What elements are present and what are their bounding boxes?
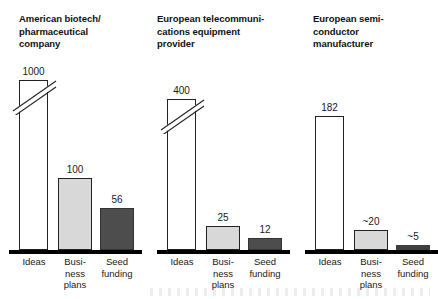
plot-area-2: 400 25 12 Ideas Busi- ness plans Seed fu… — [150, 0, 290, 299]
value-label-business-plans-1: 100 — [53, 164, 97, 175]
category-label-business-plans-2: Busi- ness plans — [201, 256, 245, 291]
category-label-ideas-3: Ideas — [306, 256, 354, 268]
value-label-business-plans-2: 25 — [201, 212, 245, 223]
bar-ideas-3 — [315, 116, 344, 250]
x-axis-1 — [9, 250, 142, 254]
category-label-business-plans-1: Busi- ness plans — [53, 256, 97, 291]
category-label-ideas-2: Ideas — [158, 256, 206, 268]
value-label-ideas-2: 400 — [155, 85, 208, 96]
value-label-seed-funding-2: 12 — [243, 224, 287, 235]
x-axis-2 — [157, 250, 290, 254]
value-label-business-plans-3: ~20 — [349, 216, 393, 227]
plot-area-1: 1000 100 56 Ideas Busi- ness plans Seed … — [0, 0, 150, 299]
category-label-business-plans-3: Busi- ness plans — [349, 256, 393, 291]
bar-business-plans-1 — [58, 178, 92, 250]
bar-business-plans-3 — [354, 230, 388, 250]
value-label-ideas-1: 1000 — [7, 66, 60, 77]
category-label-seed-funding-1: Seed funding — [93, 256, 141, 279]
value-label-seed-funding-1: 56 — [95, 194, 139, 205]
bar-seed-funding-2 — [248, 238, 282, 250]
page-bottom-clipped-text — [150, 288, 430, 296]
bar-ideas-2 — [167, 99, 196, 250]
bar-seed-funding-1 — [100, 208, 134, 250]
x-axis-3 — [305, 250, 438, 254]
chart-panel-3: European semi- conductor manufacturer 18… — [290, 0, 437, 299]
chart-panel-1: American biotech/ pharmaceutical company… — [0, 0, 150, 299]
category-label-seed-funding-2: Seed funding — [241, 256, 289, 279]
category-label-ideas-1: Ideas — [10, 256, 58, 268]
category-label-seed-funding-3: Seed funding — [389, 256, 437, 279]
chart-panel-2: European telecommuni- cations equipment … — [150, 0, 290, 299]
value-label-ideas-3: 182 — [303, 102, 356, 113]
bar-ideas-1 — [19, 80, 48, 250]
value-label-seed-funding-3: ~5 — [391, 231, 435, 242]
bar-business-plans-2 — [206, 226, 240, 250]
plot-area-3: 182 ~20 ~5 Ideas Busi- ness plans Seed f… — [290, 0, 437, 299]
